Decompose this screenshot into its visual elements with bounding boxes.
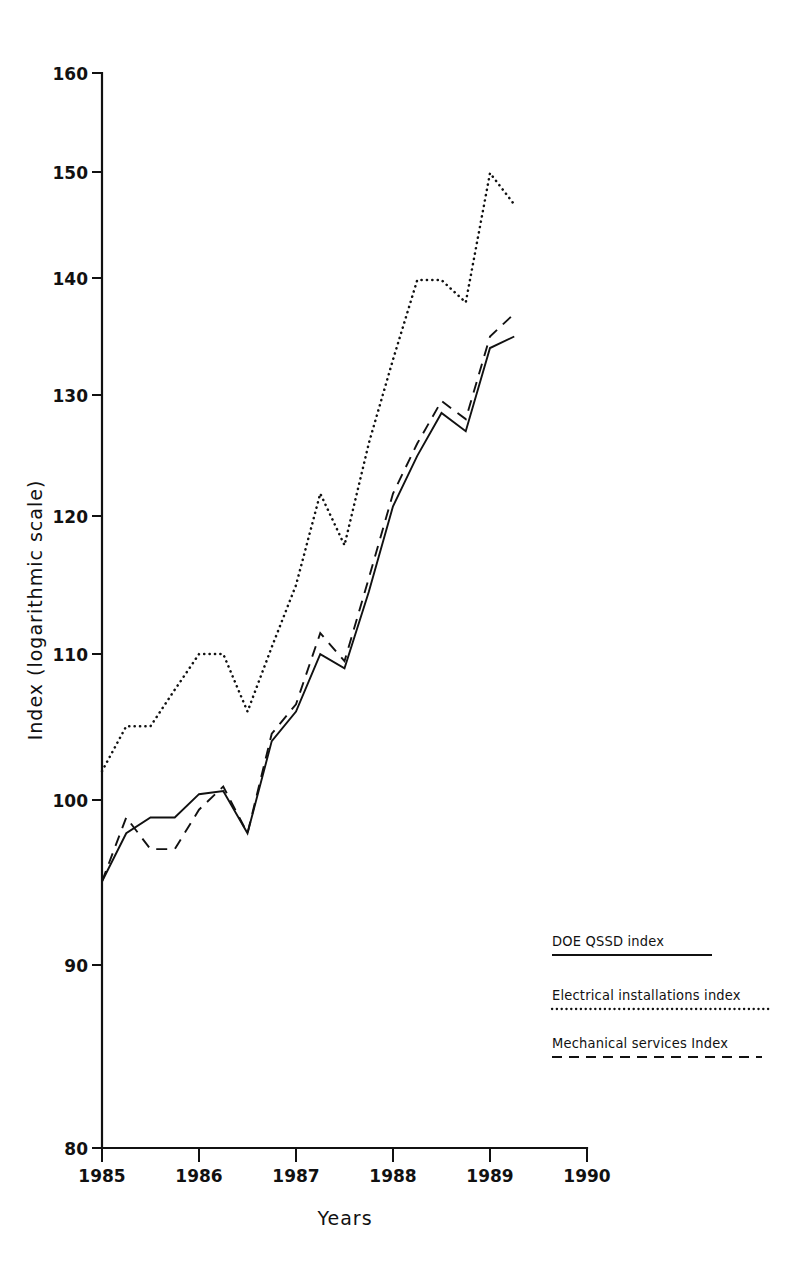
x-tick-label-1990: 1990 xyxy=(563,1166,610,1186)
y-tick-label-110: 110 xyxy=(53,645,89,665)
y-axis-ticks xyxy=(92,73,102,1148)
x-tick-label-1988: 1988 xyxy=(369,1166,416,1186)
y-tick-label-150: 150 xyxy=(53,163,89,183)
y-tick-label-120: 120 xyxy=(53,507,89,527)
y-tick-label-80: 80 xyxy=(64,1139,88,1159)
legend-label-doe-qssd: DOE QSSD index xyxy=(552,933,664,949)
series-line-mechanical-services xyxy=(102,314,514,882)
y-tick-label-100: 100 xyxy=(53,791,89,811)
x-axis-ticks xyxy=(102,1148,587,1162)
y-axis-title: Index (logarithmic scale) xyxy=(24,480,46,741)
x-tick-label-1987: 1987 xyxy=(272,1166,319,1186)
y-tick-label-130: 130 xyxy=(53,386,89,406)
x-tick-label-1985: 1985 xyxy=(78,1166,125,1186)
x-tick-label-1989: 1989 xyxy=(466,1166,513,1186)
y-tick-label-90: 90 xyxy=(64,956,88,976)
x-axis-title: Years xyxy=(316,1207,372,1229)
series-line-doe-qssd xyxy=(102,337,514,882)
chart-figure: 160 150 140 130 120 110 100 90 80 1985 1… xyxy=(0,0,809,1268)
legend: DOE QSSD index Electrical installations … xyxy=(552,933,772,1057)
line-chart-svg: 160 150 140 130 120 110 100 90 80 1985 1… xyxy=(0,0,809,1268)
y-tick-label-140: 140 xyxy=(53,269,89,289)
legend-label-mechanical-services: Mechanical services Index xyxy=(552,1035,728,1051)
x-tick-label-1986: 1986 xyxy=(175,1166,222,1186)
y-tick-label-160: 160 xyxy=(53,64,89,84)
legend-label-electrical-installations: Electrical installations index xyxy=(552,987,741,1003)
